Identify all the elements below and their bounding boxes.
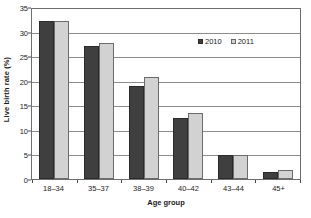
bar-2010-45+ (263, 172, 278, 179)
bar-2010-18–34 (39, 21, 54, 179)
x-axis-tick-mark (32, 180, 33, 183)
x-axis-tick-labels: 18–3435–3738–3940–4243–4445+ (31, 184, 301, 196)
x-axis-tick-label: 43–44 (211, 184, 256, 196)
x-axis-tick-label: 38–39 (121, 184, 166, 196)
legend-entry-2010: 2010 (198, 37, 222, 46)
x-axis-tick-mark (77, 180, 78, 183)
bar-2011-45+ (278, 170, 293, 179)
bar-2011-43–44 (233, 155, 248, 179)
bar-group (211, 9, 256, 179)
x-axis-tick-label: 40–42 (166, 184, 211, 196)
bar-2010-43–44 (218, 155, 233, 179)
bar-2011-40–42 (188, 113, 203, 179)
legend-label-2011: 2011 (238, 37, 254, 46)
bar-group (32, 9, 77, 179)
chart-legend: 2010 2011 (196, 36, 256, 47)
bar-group (77, 9, 122, 179)
plot-area (31, 8, 301, 180)
bars-layer (32, 9, 300, 179)
bar-2010-35–37 (84, 46, 99, 179)
x-axis-tick-mark (121, 180, 122, 183)
bar-group (166, 9, 211, 179)
y-axis-tick-label: 30 (20, 28, 28, 37)
x-axis-tick-label: 35–37 (76, 184, 121, 196)
bar-2010-38–39 (129, 86, 144, 179)
y-axis-tick-label: 35 (20, 4, 28, 13)
legend-label-2010: 2010 (205, 37, 222, 46)
bar-2010-40–42 (173, 118, 188, 179)
legend-swatch-icon-2011 (231, 39, 236, 44)
x-axis-tick-mark (211, 180, 212, 183)
x-axis-tick-mark (166, 180, 167, 183)
legend-entry-2011: 2011 (231, 37, 254, 46)
y-axis-tick-label: 20 (20, 77, 28, 86)
legend-swatch-icon-2010 (198, 39, 203, 44)
bar-2011-18–34 (54, 21, 69, 179)
y-axis-tick-labels: 05101520253035 (14, 8, 31, 180)
y-axis-title-label: Live birth rate (%) (3, 56, 12, 121)
bar-group (121, 9, 166, 179)
x-axis-tick-mark (255, 180, 256, 183)
bar-2011-35–37 (99, 43, 114, 179)
x-axis-tick-label: 18–34 (31, 184, 76, 196)
x-axis-tick-mark (300, 180, 301, 183)
bar-group (255, 9, 300, 179)
y-axis-title: Live birth rate (%) (0, 0, 14, 178)
y-axis-tick-label: 15 (20, 102, 28, 111)
x-axis-tick-label: 45+ (256, 184, 301, 196)
x-axis-title: Age group (31, 198, 301, 207)
bar-2011-38–39 (144, 77, 159, 179)
y-axis-tick-label: 25 (20, 53, 28, 62)
bar-chart-figure: Live birth rate (%) 05101520253035 18–34… (0, 0, 311, 218)
y-axis-tick-label: 10 (20, 126, 28, 135)
